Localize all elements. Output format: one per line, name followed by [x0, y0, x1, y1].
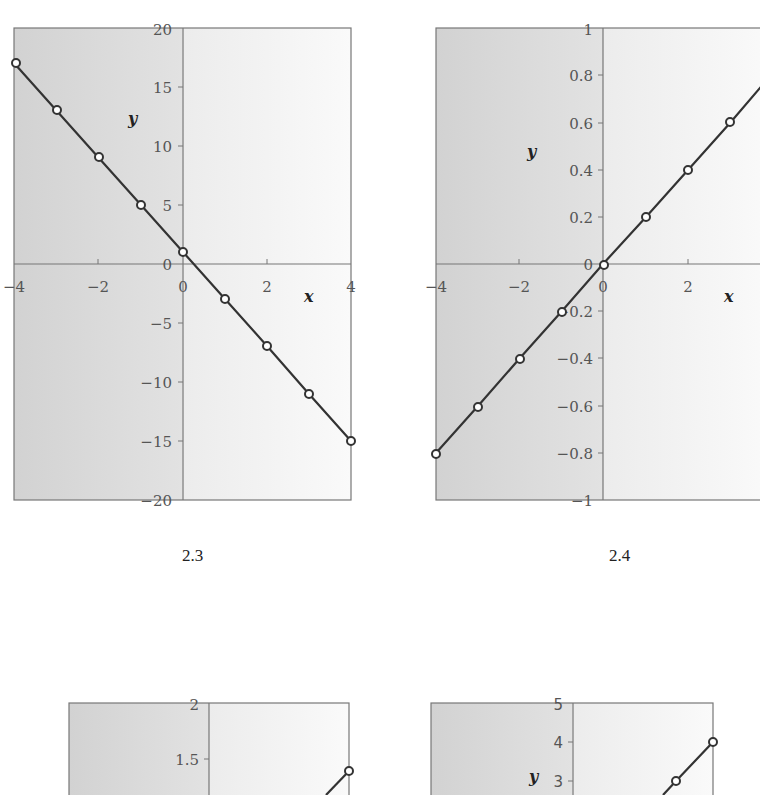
svg-text:−4: −4	[425, 278, 447, 296]
svg-text:0.6: 0.6	[569, 115, 593, 133]
figure-caption: 2.4	[609, 546, 630, 566]
svg-text:0: 0	[598, 278, 608, 296]
y-axis-label: y	[528, 767, 540, 786]
figure-caption: 2.3	[182, 546, 203, 566]
svg-text:0.4: 0.4	[569, 162, 593, 180]
svg-text:2: 2	[189, 696, 199, 714]
chart-bottom-left: 21.5	[0, 680, 380, 795]
svg-text:−1: −1	[571, 492, 593, 510]
svg-text:−0.8: −0.8	[557, 445, 593, 463]
svg-text:1.5: 1.5	[175, 751, 199, 769]
chart-bottom-left-plot: 21.5	[0, 680, 380, 795]
y-tick-labels: 543	[553, 696, 563, 791]
chart-bottom-right-plot: 543 y	[380, 680, 760, 795]
chart-bottom-right: 543 y	[380, 680, 760, 795]
svg-text:1: 1	[583, 21, 593, 39]
chart-2-4-plot: 10.80.6 0.40.20 −0.2−0.4−0.6 −0.8−1 −4−2…	[0, 0, 760, 520]
svg-text:3: 3	[553, 773, 563, 791]
x-axis-label: x	[723, 287, 734, 306]
svg-text:−2: −2	[508, 278, 530, 296]
data-marker	[345, 767, 353, 775]
svg-text:0: 0	[583, 256, 593, 274]
chart-2-4: 10.80.6 0.40.20 −0.2−0.4−0.6 −0.8−1 −4−2…	[0, 0, 760, 520]
svg-text:0.8: 0.8	[569, 67, 593, 85]
svg-text:2: 2	[683, 278, 693, 296]
y-axis-label: y	[526, 142, 538, 161]
svg-text:−0.4: −0.4	[557, 350, 593, 368]
svg-text:0.2: 0.2	[569, 209, 593, 227]
svg-text:4: 4	[553, 734, 563, 752]
svg-text:−0.6: −0.6	[557, 398, 593, 416]
svg-text:5: 5	[553, 696, 563, 714]
